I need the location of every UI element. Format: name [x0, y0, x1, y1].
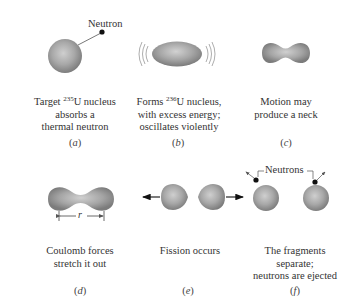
dimension-r-label: r	[78, 209, 82, 220]
neutron-dot	[99, 29, 104, 34]
panel-label-c: (c)	[266, 137, 306, 148]
neutron-trajectory-right	[317, 172, 325, 180]
neutron-trajectory-left	[246, 172, 254, 178]
caption-f: The fragments separate; neutrons are eje…	[240, 245, 350, 283]
caption-e: Fission occurs	[140, 245, 240, 258]
panel-label-b: (b)	[158, 137, 198, 148]
ejected-neutron-right	[312, 179, 317, 184]
panel-a-graphic	[48, 29, 105, 73]
panel-b-graphic	[139, 42, 215, 67]
panel-e-graphic	[143, 184, 243, 210]
neutron-pointer-line	[78, 33, 101, 45]
caption-b: Forms 236U nucleus, with excess energy; …	[124, 96, 234, 134]
vibration-arcs-left	[139, 42, 148, 66]
panel-c-graphic	[262, 43, 310, 63]
necked-nucleus	[262, 43, 310, 63]
panel-label-d: (d)	[60, 285, 100, 296]
panel-label-e: (e)	[168, 285, 208, 296]
neutrons-callout: Neutrons	[265, 164, 304, 175]
caption-d: Coulomb forces stretch it out	[30, 245, 130, 270]
fragment-sphere-right	[303, 185, 329, 211]
panel-f-graphic	[246, 171, 329, 211]
caption-a: Target 235U nucleus absorbs a thermal ne…	[20, 96, 130, 134]
fragment-sphere-left	[253, 185, 279, 211]
panel-label-a: (a)	[55, 137, 95, 148]
stretched-nucleus	[48, 187, 114, 210]
uranium-236-nucleus	[152, 42, 202, 67]
neutron-callout: Neutron	[88, 18, 122, 29]
fragment-left	[161, 184, 188, 210]
uranium-235-nucleus	[48, 39, 82, 73]
vibration-arcs-right	[206, 42, 215, 66]
fragment-right	[198, 184, 225, 210]
caption-c: Motion may produce a neck	[236, 96, 336, 121]
ejected-neutron-left	[253, 177, 258, 182]
panel-label-f: (f)	[275, 285, 315, 296]
